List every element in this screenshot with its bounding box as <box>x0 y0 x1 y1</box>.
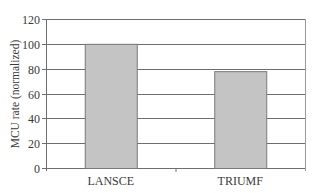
bar-lansce <box>85 44 137 168</box>
y-tick-label: 60 <box>28 88 40 102</box>
chart-canvas: 020406080100120LANSCETRIUMF <box>0 0 316 193</box>
y-tick-label: 0 <box>34 162 40 176</box>
y-tick-label: 20 <box>28 137 40 151</box>
y-axis-label: MCU rate (normalized) <box>9 24 23 164</box>
y-tick-label: 120 <box>22 13 40 27</box>
y-tick-label: 80 <box>28 63 40 77</box>
x-tick-label: TRIUMF <box>218 174 264 188</box>
y-tick-label: 100 <box>22 38 40 52</box>
bar-triumf <box>215 72 267 169</box>
x-tick-label: LANSCE <box>87 174 134 188</box>
y-tick-label: 40 <box>28 112 40 126</box>
